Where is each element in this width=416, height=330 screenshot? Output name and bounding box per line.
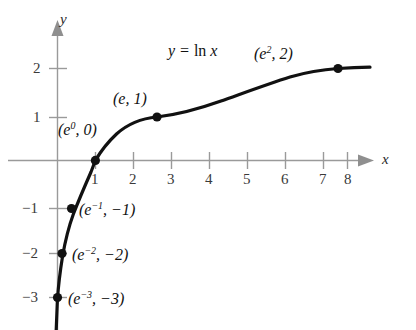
x-tick-label-4: 4 — [205, 172, 213, 187]
point-label-e-pow-0: (e0, 0) — [58, 121, 97, 138]
function-label-arg: x — [206, 42, 217, 59]
function-label: y = ln x — [168, 43, 217, 59]
point-label-e-pow-2-pre: (e — [254, 45, 266, 62]
x-tick-label-8: 8 — [344, 172, 352, 187]
x-tick-label-2: 2 — [129, 172, 137, 187]
y-tick-label-1: 1 — [33, 110, 41, 125]
point-label-e-pow-neg2-pre: (e — [72, 246, 84, 263]
point-label-e-pow-neg1-post: , −1) — [103, 201, 135, 218]
point-label-e-pow-1-pre: (e — [113, 90, 125, 107]
point-label-e-pow-neg2-sup: −2 — [84, 245, 96, 256]
x-axis-arrowhead — [358, 155, 374, 167]
point-e-pow-2 — [333, 64, 342, 73]
x-axis-label: x — [382, 152, 389, 167]
function-label-ln: ln — [194, 42, 206, 59]
point-label-e-pow-neg3-post: , −3) — [92, 290, 124, 307]
ln-graph-figure: y x y = ln x 1 2 3 4 5 6 7 8 2 1 −1 −2 −… — [0, 0, 416, 330]
x-tick-label-1: 1 — [91, 172, 99, 187]
y-tick-label-neg2: −2 — [22, 246, 38, 261]
point-label-e-pow-1: (e, 1) — [113, 91, 147, 107]
y-axis-label: y — [60, 12, 67, 27]
x-tick-label-3: 3 — [167, 172, 175, 187]
point-label-e-pow-neg1-sup: −1 — [91, 200, 103, 211]
y-tick-label-neg1: −1 — [22, 201, 38, 216]
point-label-e-pow-1-post: , 1) — [125, 90, 146, 107]
point-label-e-pow-0-post: , 0) — [75, 121, 96, 138]
point-label-e-pow-neg1-pre: (e — [79, 201, 91, 218]
point-e-pow-neg2 — [57, 249, 66, 258]
function-label-lhs: y = — [168, 42, 194, 59]
point-label-e-pow-2: (e2, 2) — [254, 45, 293, 62]
point-e-pow-neg3 — [53, 293, 62, 302]
point-label-e-pow-neg2-post: , −2) — [96, 246, 128, 263]
x-tick-label-7: 7 — [319, 172, 327, 187]
point-label-e-pow-neg3: (e−3, −3) — [68, 290, 124, 307]
point-label-e-pow-neg1: (e−1, −1) — [79, 201, 135, 218]
point-label-e-pow-0-pre: (e — [58, 121, 70, 138]
x-tick-label-6: 6 — [281, 172, 289, 187]
point-e-pow-0 — [91, 156, 100, 165]
y-tick-label-neg3: −3 — [22, 290, 38, 305]
point-e-pow-1 — [152, 112, 161, 121]
point-label-e-pow-neg2: (e−2, −2) — [72, 246, 128, 263]
point-label-e-pow-neg3-pre: (e — [68, 290, 80, 307]
point-label-e-pow-2-post: , 2) — [271, 45, 292, 62]
x-tick-label-5: 5 — [243, 172, 251, 187]
point-e-pow-neg1 — [67, 204, 76, 213]
y-tick-label-2: 2 — [33, 61, 41, 76]
point-label-e-pow-neg3-sup: −3 — [80, 289, 92, 300]
